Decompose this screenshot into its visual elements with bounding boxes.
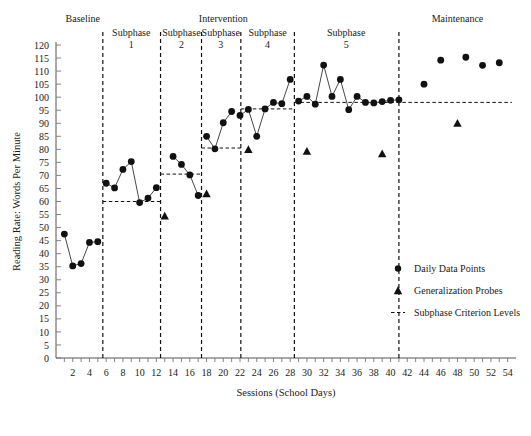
phase-header-1: Baseline [66,13,101,24]
x-tick-label: 30 [302,367,312,378]
phase-header-2: Intervention [199,13,248,24]
generalization-probe-point[interactable] [453,119,461,127]
x-tick-label: 16 [185,367,195,378]
data-point[interactable] [153,184,160,191]
x-tick-label: 8 [120,367,125,378]
single-case-design-chart: 0510152025303540455055606570758085909510… [0,0,531,436]
data-point[interactable] [212,145,219,152]
x-tick-label: 6 [104,367,109,378]
data-point[interactable] [136,199,143,206]
data-point[interactable] [245,106,252,113]
y-tick-label: 90 [39,118,49,129]
phase-header-3: Maintenance [432,13,484,24]
data-point[interactable] [103,180,110,187]
generalization-probe-point[interactable] [244,145,252,153]
y-tick-label: 20 [39,300,49,311]
data-point[interactable] [120,166,127,173]
x-tick-label: 4 [87,367,92,378]
data-point[interactable] [329,93,336,100]
y-tick-label: 45 [39,235,49,246]
y-tick-label: 60 [39,196,49,207]
data-point[interactable] [396,96,403,103]
data-point[interactable] [262,106,269,113]
data-point[interactable] [387,97,394,104]
data-point[interactable] [496,59,503,66]
data-point[interactable] [312,101,319,108]
legend-triangle-marker [394,286,402,294]
x-tick-label: 34 [335,367,345,378]
subphase-number-3: 3 [218,39,223,50]
data-point[interactable] [61,231,68,238]
data-point[interactable] [278,100,285,107]
y-tick-label: 40 [39,248,49,259]
data-point[interactable] [178,161,185,168]
data-point[interactable] [170,153,177,160]
data-point[interactable] [145,195,152,202]
legend-label-1: Daily Data Points [414,263,485,274]
data-point[interactable] [203,133,210,140]
x-tick-label: 54 [503,367,513,378]
data-point[interactable] [69,263,76,270]
x-tick-label: 38 [369,367,379,378]
subphase-number-2: 2 [179,39,184,50]
x-tick-label: 36 [352,367,362,378]
x-tick-label: 28 [285,367,295,378]
data-point[interactable] [94,238,101,245]
data-point[interactable] [86,239,93,246]
data-point[interactable] [320,62,327,69]
data-point[interactable] [304,93,311,100]
x-axis-title: Sessions (School Days) [236,387,336,399]
generalization-probe-point[interactable] [303,147,311,155]
y-axis-title: Reading Rate: Words Per Minute [11,132,22,271]
y-tick-label: 50 [39,222,49,233]
y-tick-label: 120 [34,40,49,51]
data-point[interactable] [354,93,361,100]
data-point[interactable] [479,62,486,69]
data-point[interactable] [228,108,235,115]
x-tick-label: 14 [168,367,178,378]
data-point[interactable] [195,192,202,199]
x-tick-label: 48 [452,367,462,378]
data-point[interactable] [287,76,294,83]
subphase-number-4: 4 [265,39,270,50]
x-tick-label: 50 [469,367,479,378]
y-tick-label: 65 [39,183,49,194]
y-tick-label: 110 [34,66,49,77]
y-tick-label: 75 [39,157,49,168]
subphase-header-2: Subphase [162,27,201,38]
x-tick-label: 22 [235,367,245,378]
x-tick-label: 44 [419,367,429,378]
data-point[interactable] [337,76,344,83]
data-point[interactable] [295,98,302,105]
data-point[interactable] [237,112,244,119]
data-point[interactable] [379,98,386,105]
y-tick-label: 100 [34,92,49,103]
subphase-header-4: Subphase [248,27,287,38]
data-point[interactable] [370,100,377,107]
data-point[interactable] [362,99,369,106]
generalization-probe-point[interactable] [161,212,169,220]
generalization-probe-point[interactable] [202,189,210,197]
y-tick-label: 105 [34,79,49,90]
data-point[interactable] [462,54,469,61]
data-point[interactable] [128,158,135,165]
subphase-header-5: Subphase [327,27,366,38]
generalization-probe-point[interactable] [378,150,386,158]
data-point[interactable] [421,81,428,88]
data-point[interactable] [186,171,193,178]
subphase-header-1: Subphase [112,27,151,38]
data-point[interactable] [78,260,85,267]
legend-label-3: Subphase Criterion Levels [414,307,520,318]
data-point[interactable] [437,57,444,64]
data-point[interactable] [111,185,118,192]
data-point[interactable] [345,106,352,113]
data-point[interactable] [270,99,277,106]
x-tick-label: 12 [151,367,161,378]
y-tick-label: 10 [39,327,49,338]
data-point[interactable] [253,133,260,140]
subphase-number-1: 1 [129,39,134,50]
x-tick-label: 24 [252,367,262,378]
data-line-4 [207,112,232,149]
subphase-header-3: Subphase [202,27,241,38]
data-point[interactable] [220,119,227,126]
